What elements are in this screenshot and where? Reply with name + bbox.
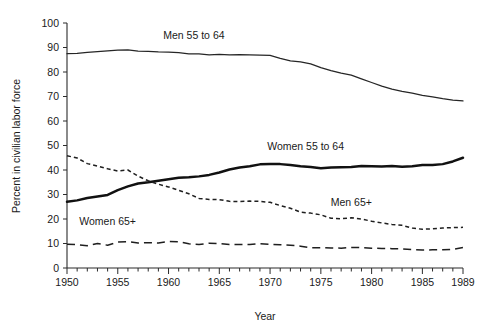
y-tick-label: 70 xyxy=(47,90,59,102)
series-line-men-55-to-64 xyxy=(67,50,463,101)
y-tick-label: 60 xyxy=(47,115,59,127)
series-label-men-55-to-64: Men 55 to 64 xyxy=(163,29,224,41)
y-axis: 0102030405060708090100 xyxy=(41,17,67,274)
x-tick-label: 1989 xyxy=(451,276,475,288)
x-axis: 195019551960196519701975198019851989 xyxy=(55,268,475,288)
x-tick-label: 1950 xyxy=(55,276,79,288)
y-tick-label: 0 xyxy=(53,262,59,274)
series-label-women-65: Women 65+ xyxy=(79,215,136,227)
y-tick-label: 10 xyxy=(47,237,59,249)
y-tick-label: 100 xyxy=(41,17,59,29)
x-tick-label: 1955 xyxy=(106,276,130,288)
series-label-women-55-to-64: Women 55 to 64 xyxy=(267,140,344,152)
x-tick-label: 1975 xyxy=(309,276,333,288)
line-chart-canvas: 0102030405060708090100 19501955196019651… xyxy=(0,0,495,331)
series-label-group: Men 55 to 64Women 55 to 64Men 65+Women 6… xyxy=(79,29,372,227)
x-tick-label: 1965 xyxy=(208,276,232,288)
y-tick-label: 90 xyxy=(47,41,59,53)
x-tick-label: 1985 xyxy=(411,276,435,288)
y-tick-label: 50 xyxy=(47,139,59,151)
y-axis-title: Percent in civilian labor force xyxy=(10,79,22,213)
y-tick-label: 80 xyxy=(47,66,59,78)
series-line-women-65 xyxy=(67,242,463,251)
x-tick-label: 1970 xyxy=(258,276,282,288)
y-tick-label: 40 xyxy=(47,164,59,176)
chart-figure: 0102030405060708090100 19501955196019651… xyxy=(0,0,495,331)
x-tick-label: 1980 xyxy=(360,276,384,288)
y-tick-group: 0102030405060708090100 xyxy=(41,17,67,274)
series-line-women-55-to-64 xyxy=(67,158,463,202)
x-tick-group: 195019551960196519701975198019851989 xyxy=(55,268,475,288)
x-tick-label: 1960 xyxy=(157,276,181,288)
series-label-men-65: Men 65+ xyxy=(331,196,372,208)
y-tick-label: 20 xyxy=(47,213,59,225)
y-tick-label: 30 xyxy=(47,188,59,200)
x-axis-title: Year xyxy=(254,310,276,322)
